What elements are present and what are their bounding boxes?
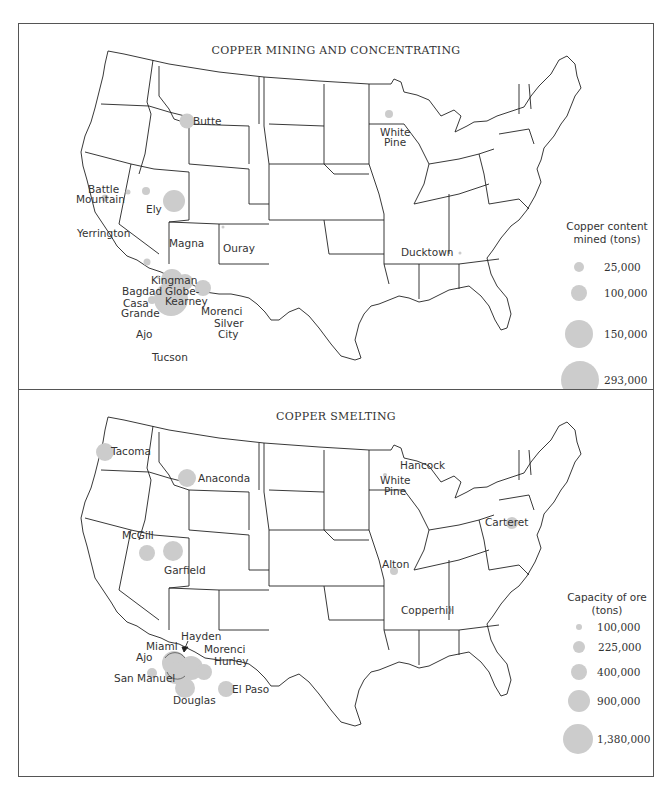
- smelting-legend-value: 100,000: [597, 621, 640, 633]
- smelting-legend: Capacity of ore (tons) 100,000 225,000 4…: [561, 591, 653, 617]
- smelting-legend-value: 1,380,000: [597, 733, 650, 745]
- site-label-butte: Butte: [193, 116, 222, 127]
- site-label-white-pine-2: Pine: [384, 486, 406, 497]
- site-label-el-paso: El Paso: [232, 684, 269, 695]
- site-label-ajo: Ajo: [136, 329, 153, 340]
- site-label-hurley: Hurley: [214, 656, 248, 667]
- site-label-ely: Ely: [146, 204, 162, 215]
- site-label-tacoma: Tacoma: [111, 446, 151, 457]
- site-label-garfield: Garfield: [164, 565, 206, 576]
- site-label-san-manuel: San Manuel: [114, 673, 175, 684]
- site-label-white-pine-2: Pine: [384, 137, 406, 148]
- legend-bubble-icon: [563, 724, 593, 754]
- site-label-battle-mountain-2: Mountain: [76, 194, 125, 205]
- site-label-casa-grande-2: Grande: [121, 308, 160, 319]
- smelting-legend-value: 900,000: [597, 695, 640, 707]
- smelting-legend-title-1: Capacity of ore: [561, 591, 653, 604]
- site-label-ajo: Ajo: [136, 652, 153, 663]
- site-label-alton: Alton: [382, 559, 409, 570]
- legend-bubble-icon: [576, 624, 582, 630]
- mining-legend-value: 25,000: [604, 261, 641, 273]
- mining-legend-title-2: mined (tons): [561, 233, 653, 246]
- site-label-silver-city-2: City: [218, 329, 239, 340]
- site-label-bagdad: Bagdad: [122, 286, 162, 297]
- site-label-morenci: Morenci: [204, 644, 245, 655]
- site-label-hayden: Hayden: [181, 631, 221, 642]
- smelting-legend-value: 400,000: [597, 666, 640, 678]
- site-label-magna: Magna: [169, 238, 204, 249]
- legend-bubble-icon: [565, 320, 593, 348]
- mining-bubbles: [19, 24, 653, 390]
- site-label-ducktown: Ducktown: [401, 247, 453, 258]
- site-label-morenci: Morenci: [201, 306, 242, 317]
- legend-bubble-icon: [568, 690, 590, 712]
- site-label-tucson: Tucson: [152, 352, 188, 363]
- site-label-mcgill: McGill: [122, 530, 154, 541]
- mining-legend-value: 293,000: [604, 374, 647, 386]
- site-label-carteret: Carteret: [485, 517, 528, 528]
- legend-bubble-icon: [571, 285, 587, 301]
- legend-bubble-icon: [573, 641, 585, 653]
- mining-legend-value: 150,000: [604, 328, 647, 340]
- site-label-anaconda: Anaconda: [198, 473, 250, 484]
- legend-bubble-icon: [574, 262, 584, 272]
- site-label-yerrington: Yerrington: [77, 228, 130, 239]
- legend-bubble-icon: [571, 664, 587, 680]
- smelting-map-panel: COPPER SMELTING: [18, 389, 654, 777]
- site-label-ouray: Ouray: [223, 243, 255, 254]
- smelting-legend-title-2: (tons): [561, 604, 653, 617]
- site-label-hancock: Hancock: [400, 460, 445, 471]
- site-label-copperhill: Copperhill: [401, 605, 454, 616]
- mining-legend: Copper content mined (tons) 25,000 100,0…: [561, 220, 653, 246]
- mining-map-panel: COPPER MINING AND CONCENTRATING: [18, 23, 654, 391]
- mining-legend-title-1: Copper content: [561, 220, 653, 233]
- mining-legend-value: 100,000: [604, 287, 647, 299]
- site-label-douglas: Douglas: [173, 695, 216, 706]
- smelting-legend-value: 225,000: [598, 641, 641, 653]
